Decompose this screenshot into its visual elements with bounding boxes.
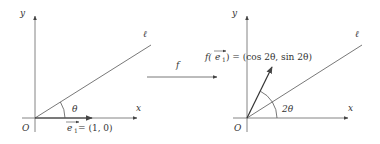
left-panel: y x O ℓ θ e 1 = (1, 0) <box>19 8 151 134</box>
right-angle-label: 2θ <box>281 104 294 114</box>
svg-text:) = (cos 2θ, sin 2θ): ) = (cos 2θ, sin 2θ) <box>226 52 312 62</box>
left-angle-label: θ <box>72 104 78 114</box>
left-vector-label: e 1 = (1, 0) <box>66 122 113 134</box>
right-panel: y x O ℓ 2θ f( e 1 ) = (cos 2θ, sin 2θ) <box>204 8 362 133</box>
right-x-label: x <box>348 103 353 113</box>
left-theta-arc <box>60 102 65 118</box>
right-image-label: f( e 1 ) = (cos 2θ, sin 2θ) <box>204 51 312 63</box>
svg-text:e: e <box>215 52 220 62</box>
left-y-label: y <box>19 8 26 18</box>
left-x-label: x <box>136 103 141 113</box>
svg-text:f(: f( <box>204 52 212 62</box>
mapping-arrow: f <box>147 60 217 77</box>
right-line-label: ℓ <box>355 29 359 39</box>
left-line-l <box>35 45 151 118</box>
right-y-label: y <box>231 8 238 18</box>
map-label: f <box>175 60 181 70</box>
svg-text:= (1, 0): = (1, 0) <box>78 123 113 133</box>
svg-text:e: e <box>67 123 72 133</box>
left-line-label: ℓ <box>143 29 147 39</box>
right-origin-label: O <box>234 123 242 133</box>
diagram: y x O ℓ θ e 1 = (1, 0) f y x O ℓ 2θ f( e… <box>0 0 380 144</box>
reflection-diagram-svg: y x O ℓ θ e 1 = (1, 0) f y x O ℓ 2θ f( e… <box>0 0 380 144</box>
left-origin-label: O <box>22 123 30 133</box>
